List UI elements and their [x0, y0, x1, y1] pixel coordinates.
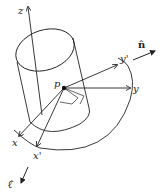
x-axis [19, 88, 64, 136]
cylinder-bottom-arc [30, 108, 90, 132]
label-z: z [17, 5, 24, 16]
cylinder [10, 22, 89, 132]
cylinder-left-edge [17, 62, 30, 122]
z-axis [28, 7, 42, 115]
point-p [62, 86, 66, 90]
n-hat-vector [133, 51, 155, 60]
label-n-hat: n̂ [138, 39, 146, 50]
label-y: y [132, 83, 139, 94]
label-p: p [54, 78, 61, 89]
cylinder-right-edge [73, 38, 89, 108]
label-x-prime: x' [33, 150, 41, 161]
outer-arc [14, 66, 133, 150]
l-hat-vector [21, 167, 28, 183]
label-l-hat: ℓ̂ [8, 179, 14, 190]
label-y-prime: y' [119, 53, 128, 64]
y-prime-axis [64, 65, 117, 88]
cylinder-top-ellipse [10, 22, 79, 79]
cylinder-frame-diagram: z p y y' x x' n̂ ℓ̂ [0, 0, 163, 193]
label-x: x [12, 137, 18, 148]
x-prime-axis [37, 88, 64, 146]
